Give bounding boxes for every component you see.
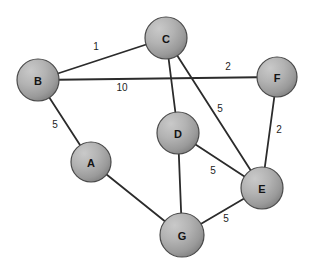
edge-weight-label: 2	[225, 61, 231, 72]
graph-node-g[interactable]: G	[160, 213, 204, 257]
graph-node-b[interactable]: B	[17, 59, 59, 101]
edge-weight-label: 5	[210, 165, 216, 176]
node-label-b: B	[34, 75, 42, 87]
node-label-f: F	[274, 72, 281, 84]
edge-weight-label: 10	[116, 82, 128, 93]
graph-node-c[interactable]: C	[145, 17, 187, 59]
edge-weight-label: 5	[217, 103, 223, 114]
graph-node-f[interactable]: F	[257, 57, 297, 97]
graph-node-e[interactable]: E	[241, 167, 283, 209]
node-label-c: C	[162, 33, 170, 45]
node-label-g: G	[178, 230, 187, 242]
edge-weight-label: 2	[276, 124, 282, 135]
graph-node-d[interactable]: D	[157, 112, 199, 154]
nodes-layer: ABCDEFG	[17, 17, 297, 257]
node-label-a: A	[87, 157, 95, 169]
graph-edge-b-f	[38, 77, 277, 80]
graph-node-a[interactable]: A	[71, 142, 111, 182]
node-label-e: E	[258, 183, 265, 195]
edge-weight-label: 1	[93, 41, 99, 52]
graph-diagram-canvas: ABCDEFG 110255255	[0, 0, 319, 272]
graph-svg: ABCDEFG 110255255	[0, 0, 319, 272]
edge-weight-label: 5	[52, 119, 58, 130]
edge-weight-label: 5	[223, 213, 229, 224]
node-label-d: D	[174, 128, 182, 140]
